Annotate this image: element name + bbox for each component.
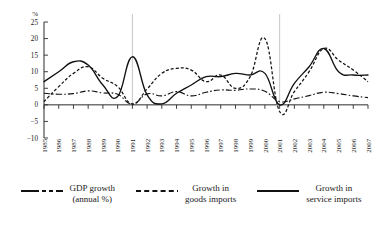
x-tick-label: 1991 — [129, 138, 137, 153]
series-service-imports — [44, 48, 368, 105]
y-tick-label: −5 — [30, 118, 38, 126]
x-tick-label: 2006 — [350, 138, 358, 153]
legend-label: GDP growth(annual %) — [70, 183, 115, 204]
series-gdp-growth — [44, 89, 368, 104]
legend-label-line2: service imports — [306, 194, 361, 205]
legend-swatch-dash-dot-icon — [20, 184, 64, 198]
x-tick-label: 1996 — [203, 138, 211, 153]
x-tick-label: 1988 — [85, 138, 93, 153]
x-tick-label: 1989 — [100, 138, 108, 153]
x-tick-label: 1995 — [188, 138, 196, 153]
y-tick-label: 20 — [31, 35, 39, 43]
legend-label-line1: Growth in — [315, 183, 352, 193]
legend-label-line1: GDP growth — [70, 183, 115, 193]
legend-swatch-solid-icon — [256, 184, 300, 198]
x-axis-labels: 1985198619871988198919901991199219931994… — [41, 138, 373, 153]
x-tick-label: 2007 — [365, 138, 373, 153]
x-tick-label: 1986 — [55, 138, 63, 153]
y-tick-label: 10 — [31, 68, 39, 76]
y-tick-label: 15 — [31, 52, 39, 60]
x-tick-label: 1985 — [41, 138, 49, 153]
legend-item: GDP growth(annual %) — [20, 183, 115, 204]
y-tick-label: 5 — [34, 85, 38, 93]
x-tick-label: 1990 — [114, 138, 122, 153]
x-tick-label: 2000 — [262, 138, 270, 153]
x-tick-label: 1997 — [217, 138, 225, 153]
reference-lines — [132, 14, 279, 105]
legend-item: Growth inservice imports — [256, 183, 361, 204]
y-tick-label: −10 — [27, 135, 39, 143]
x-tick-label: 1994 — [173, 138, 181, 153]
legend-label-line1: Growth in — [192, 183, 229, 193]
x-tick-label: 1992 — [144, 138, 152, 153]
x-tick-label: 2001 — [276, 138, 284, 153]
legend-swatch-dashed-icon — [135, 184, 179, 198]
legend-label: Growth inservice imports — [306, 183, 361, 204]
y-tick-label: 0 — [34, 101, 38, 109]
x-tick-label: 1993 — [158, 138, 166, 153]
x-axis-ticks — [44, 105, 368, 109]
y-axis-unit-label: % — [32, 10, 38, 18]
y-tick-label: 25 — [31, 19, 39, 27]
x-tick-label: 2003 — [306, 138, 314, 153]
legend-label-line2: goods imports — [185, 194, 236, 205]
chart-figure: % 2520151050−5−10 1985198619871988198919… — [0, 0, 381, 228]
x-tick-label: 1998 — [232, 138, 240, 153]
legend-label-line2: (annual %) — [70, 194, 115, 205]
x-tick-label: 2002 — [291, 138, 299, 153]
y-axis-labels: 2520151050−5−10 — [27, 19, 39, 143]
x-tick-label: 1999 — [247, 138, 255, 153]
x-tick-label: 1987 — [70, 138, 78, 153]
legend-label: Growth ingoods imports — [185, 183, 236, 204]
x-tick-label: 2005 — [335, 138, 343, 153]
x-tick-label: 2004 — [320, 138, 328, 153]
legend-item: Growth ingoods imports — [135, 183, 236, 204]
chart-legend: GDP growth(annual %)Growth ingoods impor… — [0, 183, 381, 223]
